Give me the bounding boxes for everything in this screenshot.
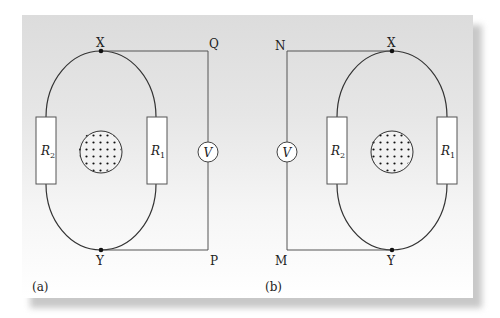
resistor-r2: R2: [327, 117, 347, 184]
svg-text:V: V: [283, 146, 293, 160]
node-label-m: M: [275, 254, 287, 268]
voltmeter: V: [198, 142, 218, 162]
junction-y: [99, 248, 104, 253]
loop-wire-top: [337, 51, 447, 117]
resistor-r2: R2: [36, 117, 56, 184]
magnetic-field-region: [77, 128, 123, 174]
voltmeter: V: [277, 142, 297, 162]
circuit-figure: R2 R1 V X Y Q P (a): [0, 0, 500, 318]
magnetic-field-region: [368, 128, 414, 174]
resistor-r1: R1: [437, 117, 457, 184]
junction-y: [390, 248, 395, 253]
svg-text:V: V: [204, 146, 214, 160]
panel-label-b: (b): [265, 280, 282, 294]
node-label-q: Q: [209, 37, 219, 51]
node-label-y: Y: [95, 254, 105, 268]
loop-wire-top: [46, 51, 156, 117]
panel-label-a: (a): [32, 280, 49, 294]
node-label-y: Y: [386, 254, 396, 268]
node-label-n: N: [275, 39, 286, 53]
node-label-x: X: [387, 36, 396, 50]
node-label-x: X: [96, 36, 105, 50]
loop-wire-bottom: [46, 184, 156, 250]
loop-wire-bottom: [337, 184, 447, 250]
resistor-r1: R1: [147, 117, 167, 184]
node-label-p: P: [210, 254, 218, 268]
diagram-a: R2 R1 V X Y Q P (a): [32, 36, 219, 294]
diagram-b: R2 R1 V X Y N M (b): [265, 36, 457, 294]
